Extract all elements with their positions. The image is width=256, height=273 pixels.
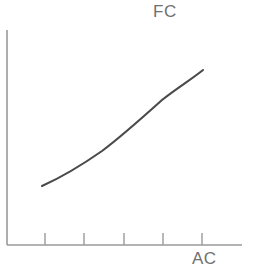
series-label-fc: FC	[153, 3, 177, 21]
plot-area	[0, 0, 256, 273]
x-axis-label-ac: AC	[192, 250, 217, 268]
x-axis-tick-group	[45, 233, 202, 245]
fc-curve-line	[42, 70, 203, 186]
chart-container: FC AC	[0, 0, 256, 273]
